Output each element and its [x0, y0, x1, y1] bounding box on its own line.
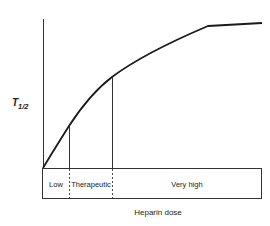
x-axis-label: Heparin dose	[134, 208, 182, 217]
y-axis-label: T1/2	[12, 97, 29, 111]
y-axis-label-sub: 1/2	[18, 102, 29, 111]
zone-label-low: Low	[49, 180, 63, 189]
zone-label-very-high: Very high	[171, 180, 202, 189]
halflife-curve	[43, 23, 262, 168]
heparin-halflife-diagram: Low Therapeutic Very high T1/2 Heparin d…	[0, 0, 270, 226]
zone-label-therapeutic: Therapeutic	[71, 180, 111, 189]
